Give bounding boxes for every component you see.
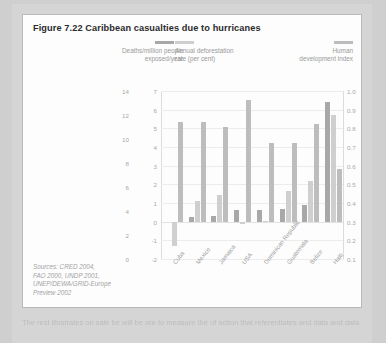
y-mid-tick: 6 [154, 106, 157, 113]
figure-container: Figure 7.22 Caribbean casualties due to … [22, 14, 362, 308]
y-left-tick: 10 [122, 136, 129, 143]
y-right-tick: 0.3 [347, 218, 356, 225]
legend-item-deforestation: Annual deforestation rate (per cent) [175, 41, 234, 63]
y-right-tick: 0.9 [347, 106, 356, 113]
bar-hdi [314, 124, 319, 221]
bar-group [252, 91, 275, 259]
y-mid-tick: 5 [154, 125, 157, 132]
y-right-tick: 0.6 [347, 162, 356, 169]
legend-item-hdi: Human development index [299, 41, 353, 63]
legend-label-deforestation-line2: rate (per cent) [175, 55, 234, 63]
sources-line: Sources: CRED 2004, [33, 263, 111, 271]
bar-deaths [234, 210, 239, 221]
y-axis-right: 1.00.90.80.70.60.50.40.30.20.1 [341, 91, 371, 259]
bar-defor [263, 221, 268, 222]
y-axis-middle: 76543210-1-2 [131, 91, 157, 259]
y-right-tick: 0.7 [347, 144, 356, 151]
y-mid-tick: 0 [154, 218, 157, 225]
legend-label-deaths-line2: exposed/year [122, 55, 183, 63]
bar-hdi [201, 122, 206, 222]
y-right-tick: 0.1 [347, 256, 356, 263]
bar-group [320, 91, 343, 259]
y-right-tick: 0.2 [347, 237, 356, 244]
bars-plot [161, 91, 343, 259]
bar-deaths [211, 216, 216, 222]
y-axis-left: 14121086420 [103, 91, 129, 259]
bar-defor [172, 222, 177, 246]
y-mid-tick: 2 [154, 181, 157, 188]
y-mid-tick: -2 [151, 256, 157, 263]
bar-group [161, 91, 184, 259]
y-left-tick: 2 [126, 232, 129, 239]
bar-group [298, 91, 321, 259]
legend-item-deaths: Deaths/million people exposed/year [122, 41, 183, 63]
sources-line: Preview 2002 [33, 289, 111, 297]
x-axis-labels: CubaMexicoJamaicaUSADominican RepublicGu… [161, 261, 343, 321]
sources-note: Sources: CRED 2004,FAO 2000, UNDP 2001,U… [33, 263, 111, 297]
legend-label-hdi-line1: Human [299, 47, 353, 55]
chart-legend: Deaths/million people exposed/year Annua… [23, 41, 361, 81]
y-left-tick: 6 [126, 184, 129, 191]
bar-hdi [178, 122, 183, 222]
y-left-tick: 0 [126, 256, 129, 263]
legend-swatch-deforestation [175, 41, 194, 44]
bar-group [184, 91, 207, 259]
legend-swatch-hdi [334, 41, 353, 44]
legend-label-deaths-line1: Deaths/million people [122, 47, 183, 55]
bar-hdi [292, 143, 297, 221]
y-left-tick: 4 [126, 208, 129, 215]
bar-group [207, 91, 230, 259]
page-body-text: The rest illustrates on sale be will be … [22, 318, 362, 327]
y-mid-tick: -1 [151, 237, 157, 244]
bar-deaths [302, 205, 307, 222]
figure-title: Figure 7.22 Caribbean casualties due to … [33, 23, 261, 33]
bar-groups [161, 91, 343, 259]
bar-deaths [325, 102, 330, 221]
bar-hdi [223, 127, 228, 222]
book-page: Figure 7.22 Caribbean casualties due to … [0, 0, 386, 343]
bar-defor [331, 115, 336, 221]
y-right-tick: 1.0 [347, 88, 356, 95]
bar-deaths [189, 217, 194, 222]
bar-hdi [246, 100, 251, 221]
y-left-tick: 14 [122, 88, 129, 95]
y-right-tick: 0.4 [347, 200, 356, 207]
sources-line: FAO 2000, UNDP 2001, [33, 272, 111, 280]
bar-deaths [280, 209, 285, 222]
y-mid-tick: 7 [154, 88, 157, 95]
y-left-tick: 8 [126, 160, 129, 167]
y-right-tick: 0.8 [347, 125, 356, 132]
plot-area: 14121086420 76543210-1-2 1.00.90.80.70.6… [23, 91, 361, 281]
bar-defor [240, 222, 245, 225]
y-mid-tick: 3 [154, 162, 157, 169]
bar-hdi [269, 143, 274, 221]
bar-defor [286, 191, 291, 222]
sources-line: UNEP/DEWA/GRID-Europe [33, 280, 111, 288]
legend-label-hdi-line2: development index [299, 55, 353, 63]
bar-group [229, 91, 252, 259]
y-mid-tick: 1 [154, 200, 157, 207]
bar-deaths [257, 210, 262, 222]
bar-defor [217, 195, 222, 222]
legend-swatch-deaths [155, 41, 174, 44]
y-mid-tick: 4 [154, 144, 157, 151]
y-left-tick: 12 [122, 112, 129, 119]
axis-line-right [343, 91, 344, 259]
bar-defor [308, 181, 313, 222]
y-right-tick: 0.5 [347, 181, 356, 188]
bar-defor [195, 201, 200, 222]
legend-label-deforestation-line1: Annual deforestation [175, 47, 234, 55]
bar-hdi [337, 169, 342, 222]
